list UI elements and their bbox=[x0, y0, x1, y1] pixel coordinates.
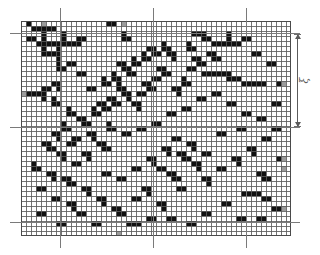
xi-label: ξ bbox=[299, 77, 310, 83]
percolation-lattice bbox=[21, 21, 291, 236]
arrow-head-up-icon bbox=[295, 34, 301, 39]
figure-canvas: ξ bbox=[0, 0, 320, 255]
crosshair-horizontal-3 bbox=[10, 222, 300, 223]
crosshair-vertical-3 bbox=[246, 8, 247, 248]
crosshair-horizontal-2 bbox=[10, 127, 300, 128]
crosshair-horizontal-1 bbox=[10, 33, 300, 34]
crosshair-vertical-2 bbox=[153, 8, 154, 248]
arrow-head-down-icon bbox=[295, 122, 301, 127]
crosshair-vertical-1 bbox=[60, 8, 61, 248]
lattice-canvas bbox=[21, 21, 291, 236]
